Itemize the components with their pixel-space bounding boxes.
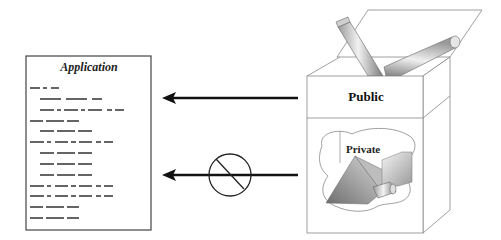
application-document (26, 56, 151, 230)
private-access-blocked-arrow (162, 154, 298, 196)
application-title: Application (26, 60, 152, 75)
public-label: Public (308, 89, 424, 105)
private-region (320, 128, 415, 211)
encapsulation-diagram: Application Public Private (0, 0, 501, 240)
private-label: Private (346, 143, 380, 155)
public-access-arrow (162, 92, 298, 104)
